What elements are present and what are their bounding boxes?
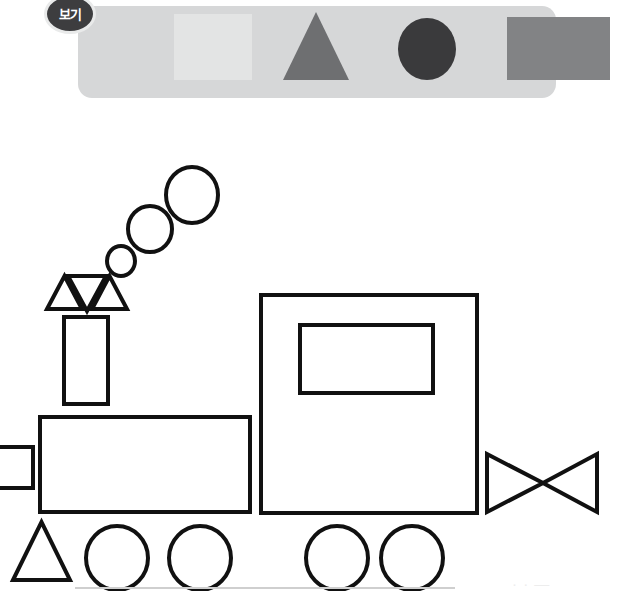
boiler-body-shape bbox=[40, 417, 250, 512]
smoke-puff-large-shape bbox=[166, 167, 218, 223]
train-drawing bbox=[0, 0, 632, 591]
smoke-puff-small-shape bbox=[107, 246, 135, 276]
smoke-puff-medium-shape bbox=[128, 206, 172, 252]
train-svg bbox=[0, 0, 632, 591]
chimney-stack-shape bbox=[64, 317, 108, 404]
wheel-rear-2-shape bbox=[381, 526, 443, 590]
worksheet-page: 보기 bbox=[0, 0, 632, 591]
wheel-front-1-shape bbox=[86, 526, 148, 590]
cowcatcher-shape bbox=[13, 522, 70, 580]
rear-bowtie-left-shape bbox=[487, 454, 543, 512]
legend-badge-label: 보기 bbox=[59, 8, 82, 21]
footer-mark: · · — bbox=[512, 575, 550, 591]
wheel-rear-1-shape bbox=[306, 526, 368, 590]
cab-window-shape bbox=[300, 325, 433, 393]
rear-bowtie-right-shape bbox=[543, 454, 597, 512]
wheel-front-2-shape bbox=[169, 526, 231, 590]
front-coupler-shape bbox=[0, 447, 33, 488]
